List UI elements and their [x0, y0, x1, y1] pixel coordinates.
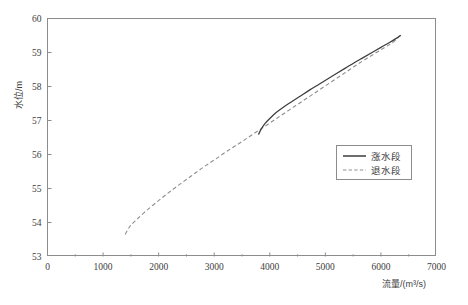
x-tick-label: 0	[45, 262, 50, 272]
y-axis-title-group: 水位/m	[13, 81, 24, 109]
y-tick-label: 56	[32, 150, 42, 160]
x-tick-label: 1000	[94, 262, 113, 272]
y-tick-label: 53	[32, 252, 42, 262]
x-tick-label: 5000	[316, 262, 335, 272]
y-tick-label: 55	[32, 184, 42, 194]
chart-legend[interactable]: 涨水段 退水段	[337, 146, 412, 180]
y-axis-title: 水位/m	[13, 81, 24, 109]
x-axis-title: 流量/(m³/s)	[382, 278, 426, 289]
y-tick-label: 54	[32, 218, 42, 228]
x-tick-label: 7000	[427, 262, 446, 272]
x-axis-title-group: 流量/(m³/s)	[382, 278, 426, 289]
y-tick-label: 58	[32, 82, 42, 92]
x-tick-label: 6000	[371, 262, 390, 272]
y-tick-label: 59	[32, 48, 42, 58]
y-tick-label: 57	[32, 116, 42, 126]
legend-label-rising: 涨水段	[371, 151, 401, 162]
hysteresis-rating-curve-chart: 01000200030004000500060007000 5354555657…	[0, 0, 468, 305]
y-tick-label: 60	[32, 14, 42, 24]
x-tick-label: 2000	[149, 262, 168, 272]
x-tick-label: 4000	[260, 262, 279, 272]
x-tick-label: 3000	[205, 262, 224, 272]
legend-label-falling: 退水段	[371, 165, 401, 176]
